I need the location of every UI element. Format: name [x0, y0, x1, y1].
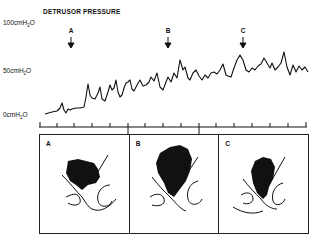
bladder-image-c — [219, 135, 308, 233]
panel-c: C — [219, 135, 308, 233]
panel-b: B — [130, 135, 220, 233]
arrow-down-icon — [68, 37, 246, 48]
bladder-image-b — [130, 135, 219, 233]
bladder-image-a — [40, 135, 129, 233]
time-axis-ticks — [40, 122, 306, 134]
cystogram-panels: A B C — [39, 134, 309, 234]
panel-a: A — [40, 135, 130, 233]
pressure-trace-plot — [0, 0, 317, 134]
